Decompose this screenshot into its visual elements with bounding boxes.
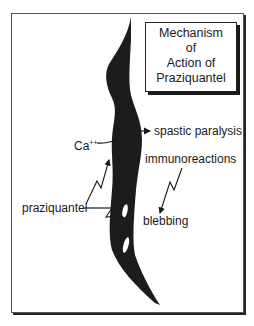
label-blebbing: blebbing (143, 215, 188, 228)
calcium-charge: ++ (89, 139, 97, 146)
label-calcium: Ca++ (74, 136, 98, 153)
label-spastic-paralysis: spastic paralysis (154, 125, 242, 138)
title-line-3: Action of (146, 56, 236, 71)
title-line-4: Praziquantel (146, 71, 236, 86)
label-praziquantel: praziquantel (22, 202, 87, 215)
calcium-symbol: Ca (74, 139, 89, 153)
arrow-praziquantel-to-calcium (86, 160, 109, 204)
title-box: Mechanism of Action of Praziquantel (145, 22, 237, 92)
label-immunoreactions: immunoreactions (145, 153, 236, 166)
arrow-immunoreactions-to-blebbing (160, 168, 182, 213)
title-line-2: of (146, 41, 236, 56)
title-line-1: Mechanism (146, 26, 236, 41)
